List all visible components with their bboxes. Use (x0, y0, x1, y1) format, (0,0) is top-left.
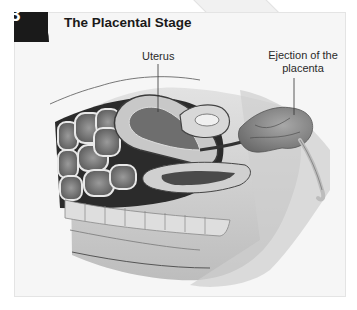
figure-title: The Placental Stage (64, 15, 192, 30)
label-uterus: Uterus (142, 50, 174, 63)
step-number: 3 (10, 4, 21, 26)
label-ejection-of-placenta: Ejection of the placenta (258, 49, 348, 75)
label-ejection-line1: Ejection of the (258, 49, 348, 62)
label-ejection-line2: placenta (258, 62, 348, 75)
bladder (180, 105, 230, 138)
anatomical-illustration (0, 0, 357, 310)
